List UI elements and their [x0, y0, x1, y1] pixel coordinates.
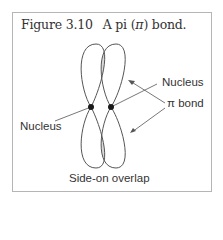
nucleus-left-dot — [88, 104, 94, 110]
nucleus-right-leader — [111, 84, 157, 107]
label-nucleus-left: Nucleus — [20, 120, 62, 132]
pi-bond-arrow-lower — [132, 108, 165, 132]
arrowhead-upper-icon — [128, 80, 135, 85]
label-nucleus-right: Nucleus — [162, 76, 204, 88]
arrowhead-lower-icon — [130, 128, 136, 133]
nucleus-right-dot — [108, 104, 114, 110]
label-pi-bond: π bond — [167, 97, 204, 109]
pi-bond-arrow-upper — [130, 81, 165, 103]
label-side-on-overlap: Side-on overlap — [69, 172, 150, 184]
